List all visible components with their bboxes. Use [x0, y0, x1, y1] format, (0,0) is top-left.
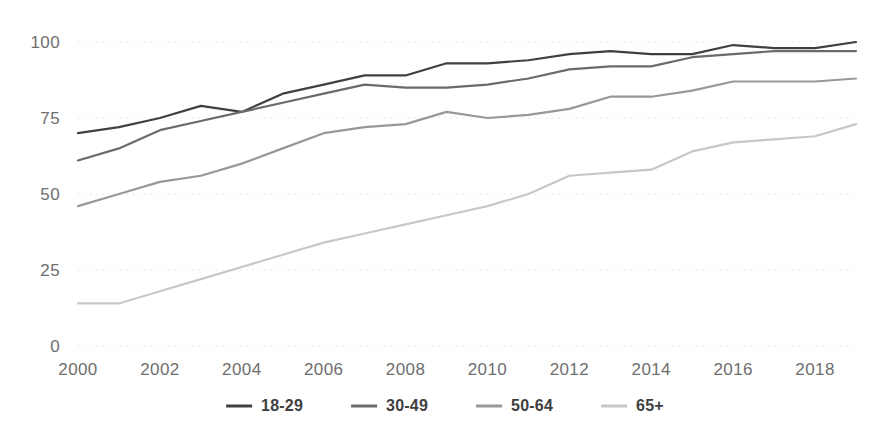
- x-tick-label-2012: 2012: [550, 360, 589, 379]
- series-line-30-49: [78, 51, 856, 160]
- line-chart: 0255075100 20002002200420062008201020122…: [0, 0, 891, 442]
- legend-label-50-64[interactable]: 50-64: [511, 397, 553, 414]
- series-lines: [78, 42, 856, 303]
- y-tick-label-50: 50: [40, 185, 60, 204]
- x-tick-label-2008: 2008: [386, 360, 425, 379]
- x-tick-label-2000: 2000: [58, 360, 97, 379]
- x-tick-label-2004: 2004: [222, 360, 261, 379]
- legend-label-30-49[interactable]: 30-49: [386, 397, 428, 414]
- x-tick-label-2010: 2010: [468, 360, 507, 379]
- x-tick-label-2016: 2016: [713, 360, 752, 379]
- chart-legend: 18-2930-4950-6465+: [226, 397, 664, 414]
- gridlines: [78, 42, 856, 346]
- x-tick-label-2014: 2014: [632, 360, 671, 379]
- series-line-65+: [78, 124, 856, 303]
- y-tick-label-75: 75: [40, 109, 60, 128]
- y-tick-label-25: 25: [40, 261, 60, 280]
- x-axis-tick-labels: 2000200220042006200820102012201420162018: [58, 360, 834, 379]
- chart-canvas: 0255075100 20002002200420062008201020122…: [0, 0, 891, 442]
- x-tick-label-2006: 2006: [304, 360, 343, 379]
- y-axis-tick-labels: 0255075100: [30, 33, 60, 356]
- legend-label-65+[interactable]: 65+: [636, 397, 664, 414]
- x-tick-label-2018: 2018: [795, 360, 834, 379]
- x-tick-label-2002: 2002: [140, 360, 179, 379]
- y-tick-label-100: 100: [30, 33, 60, 52]
- series-line-18-29: [78, 42, 856, 133]
- y-tick-label-0: 0: [50, 337, 60, 356]
- legend-label-18-29[interactable]: 18-29: [261, 397, 303, 414]
